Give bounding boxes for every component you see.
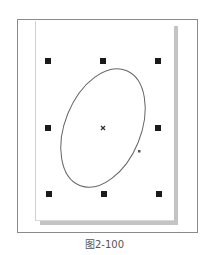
center-marker-icon[interactable] (101, 126, 105, 130)
handle-middle-right[interactable] (155, 125, 161, 131)
handle-top-center[interactable] (100, 58, 106, 64)
handle-top-right[interactable] (155, 58, 161, 64)
handle-bottom-left[interactable] (46, 191, 52, 197)
ellipse-node[interactable] (138, 150, 141, 153)
handle-bottom-center[interactable] (101, 191, 107, 197)
handle-middle-left[interactable] (45, 125, 51, 131)
handle-bottom-right[interactable] (156, 191, 162, 197)
figure-caption: 图2-100 (0, 236, 209, 251)
handle-top-left[interactable] (45, 58, 51, 64)
drawing-canvas[interactable] (0, 0, 209, 255)
